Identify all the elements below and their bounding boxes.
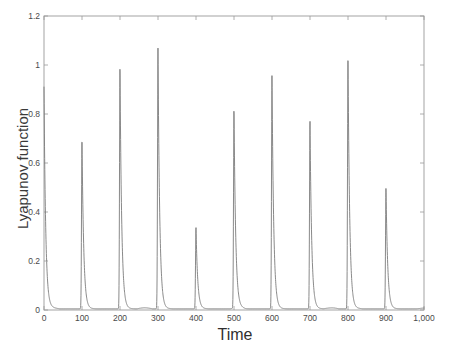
plot-area (0, 0, 449, 353)
data-series-line (44, 48, 424, 309)
chart-figure: 00.20.40.60.811.2 0100200300400500600700… (0, 0, 449, 353)
